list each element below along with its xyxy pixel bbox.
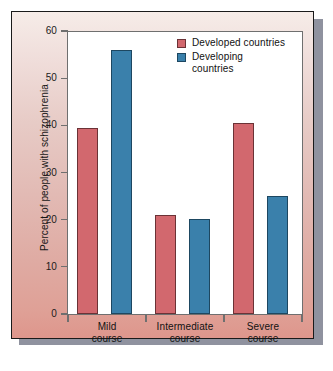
x-axis-label-line: Severe xyxy=(215,321,311,333)
chart-legend: Developed countriesDeveloping countries xyxy=(177,37,285,77)
x-axis-category-label: Severecourse xyxy=(215,321,311,344)
x-axis-label-line: course xyxy=(215,333,311,345)
legend-item: Developing countries xyxy=(177,51,285,75)
y-axis-tick-label: 20 xyxy=(27,215,57,225)
x-axis-line xyxy=(67,314,303,315)
y-axis-tick xyxy=(61,125,68,126)
bar-developing xyxy=(267,196,288,314)
y-axis-tick-label: 60 xyxy=(27,26,57,36)
y-axis-tick xyxy=(61,30,68,31)
bar-developed xyxy=(155,215,176,314)
y-axis-tick xyxy=(61,78,68,79)
y-axis-tick xyxy=(61,219,68,220)
bar-developed xyxy=(233,123,254,314)
legend-label: Developing countries xyxy=(192,51,243,75)
legend-color-swatch xyxy=(177,53,186,62)
bar-developed xyxy=(77,128,98,314)
legend-label: Developed countries xyxy=(192,37,285,49)
chart-figure: Percent of people with schizophrenia 010… xyxy=(0,0,333,371)
y-axis-tick-label: 30 xyxy=(27,168,57,178)
y-axis-tick xyxy=(61,172,68,173)
chart-panel: Percent of people with schizophrenia 010… xyxy=(11,11,314,339)
y-axis-tick-label: 50 xyxy=(27,73,57,83)
y-axis-tick xyxy=(61,266,68,267)
bar-developing xyxy=(111,50,132,314)
bar-developing xyxy=(189,219,210,314)
legend-item: Developed countries xyxy=(177,37,285,49)
legend-color-swatch xyxy=(177,39,186,48)
y-axis-tick-label: 10 xyxy=(27,262,57,272)
y-axis-tick-label: 40 xyxy=(27,120,57,130)
y-axis-tick-label: 0 xyxy=(27,309,57,319)
